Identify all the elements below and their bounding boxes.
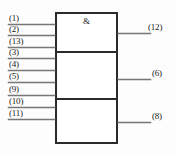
input-label-1: (1): [9, 14, 19, 23]
gate-body-outline: [55, 12, 118, 144]
input-label-3: (3): [9, 48, 19, 57]
logic-gate-diagram: & (1) (2) (13) (3) (4) (5) (9) (10) (11)…: [0, 0, 175, 155]
section-divider-1: [55, 51, 118, 53]
input-label-5: (5): [9, 72, 19, 81]
input-label-11: (11): [9, 109, 23, 118]
input-wire-11: [8, 119, 55, 120]
and-gate-symbol: &: [55, 17, 118, 26]
input-label-2: (2): [9, 25, 19, 34]
input-label-13: (13): [9, 37, 23, 46]
output-wire-8: [118, 122, 151, 123]
output-label-12: (12): [148, 23, 162, 32]
input-label-10: (10): [9, 97, 23, 106]
input-wire-5: [8, 82, 55, 83]
output-label-6: (6): [152, 69, 162, 78]
input-label-9: (9): [9, 85, 19, 94]
output-wire-12: [118, 33, 151, 34]
output-label-8: (8): [152, 112, 162, 121]
output-wire-6: [118, 79, 151, 80]
input-label-4: (4): [9, 60, 19, 69]
section-divider-2: [55, 98, 118, 100]
